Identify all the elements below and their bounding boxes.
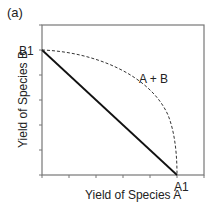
chart: B1 A1 A + B Yield of Species A Yield of … bbox=[0, 0, 215, 212]
a-plus-b-annotation: A + B bbox=[139, 72, 168, 86]
x-axis-label: Yield of Species A bbox=[85, 188, 181, 202]
linear-series-line bbox=[42, 50, 177, 175]
plot-frame bbox=[42, 25, 204, 175]
y-axis-label: Yield of Species B bbox=[16, 51, 30, 148]
